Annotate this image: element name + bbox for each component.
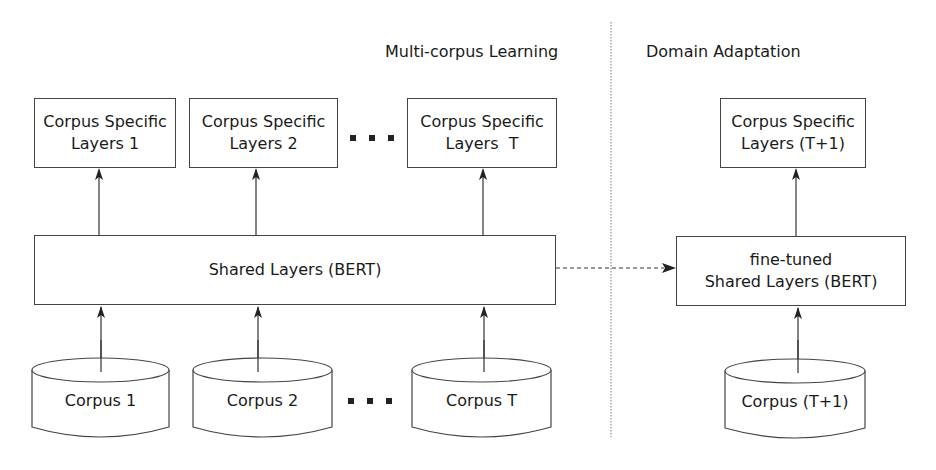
arrowheads-middle — [97, 306, 802, 319]
box-line1: Corpus Specific — [43, 111, 167, 133]
corpus-2-label: Corpus 2 — [193, 391, 332, 410]
box-line2: Layers 1 — [71, 133, 139, 155]
section-title-domain-adaptation: Domain Adaptation — [646, 42, 801, 61]
corpus-specific-layers-1: Corpus Specific Layers 1 — [34, 98, 176, 168]
box-line1: Corpus Specific — [731, 111, 855, 133]
fine-tuned-line2: Shared Layers (BERT) — [705, 271, 878, 293]
corpus-1-label: Corpus 1 — [32, 391, 169, 410]
fine-tuned-shared-layers: fine-tuned Shared Layers (BERT) — [676, 236, 906, 306]
section-title-multi-corpus: Multi-corpus Learning — [385, 42, 558, 61]
box-line2: Layers 2 — [229, 133, 297, 155]
box-line2: Layers (T+1) — [741, 133, 845, 155]
corpus-t1-label: Corpus (T+1) — [725, 392, 865, 411]
shared-layers-label: Shared Layers (BERT) — [209, 259, 382, 281]
fine-tuned-line1: fine-tuned — [750, 249, 832, 271]
box-line1: Corpus Specific — [420, 111, 544, 133]
arrows-shared-to-specific — [99, 170, 796, 236]
corpus-specific-layers-2: Corpus Specific Layers 2 — [189, 98, 338, 168]
corpus-specific-layers-t1: Corpus Specific Layers (T+1) — [720, 98, 866, 168]
ellipsis-top — [350, 135, 394, 141]
transfer-arrowhead — [662, 263, 676, 273]
corpus-t-label: Corpus T — [412, 391, 551, 410]
box-line1: Corpus Specific — [202, 111, 326, 133]
ellipsis-bottom — [348, 398, 392, 404]
arrowheads-top — [95, 168, 800, 180]
box-line2: Layers T — [446, 133, 519, 155]
corpus-specific-layers-t: Corpus Specific Layers T — [407, 98, 557, 168]
shared-layers-bert: Shared Layers (BERT) — [34, 235, 556, 305]
